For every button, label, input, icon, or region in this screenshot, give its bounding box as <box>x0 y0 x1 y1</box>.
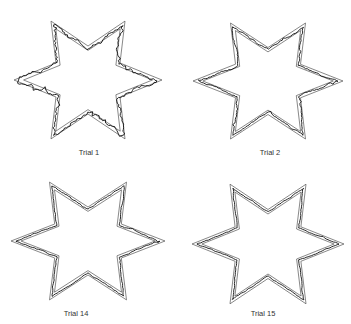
star-tracing-figure: Trial 1 Trial 2 Trial 14 Trial 15 <box>0 0 351 324</box>
drawn-trace <box>16 186 160 297</box>
drawn-trace <box>198 27 338 136</box>
star-inner-boundary <box>21 190 155 292</box>
panel-trial-14: Trial 14 <box>11 182 165 318</box>
drawn-trace <box>197 188 339 300</box>
drawn-trace <box>18 25 157 137</box>
panel-trial-1: Trial 1 <box>14 21 162 157</box>
star-inner-boundary <box>203 31 333 132</box>
panel-trial-15: Trial 15 <box>192 184 344 318</box>
panel-label: Trial 1 <box>79 148 100 157</box>
panel-label: Trial 2 <box>260 148 281 157</box>
star-inner-boundary <box>24 29 153 131</box>
star-outer-boundary <box>14 21 162 139</box>
star-inner-boundary <box>202 192 334 296</box>
star-outer-boundary <box>193 23 343 139</box>
panel-label: Trial 14 <box>64 309 89 318</box>
panel-trial-2: Trial 2 <box>193 23 343 157</box>
star-outer-boundary <box>192 184 344 304</box>
star-outer-boundary <box>11 182 165 300</box>
panel-label: Trial 15 <box>251 309 276 318</box>
